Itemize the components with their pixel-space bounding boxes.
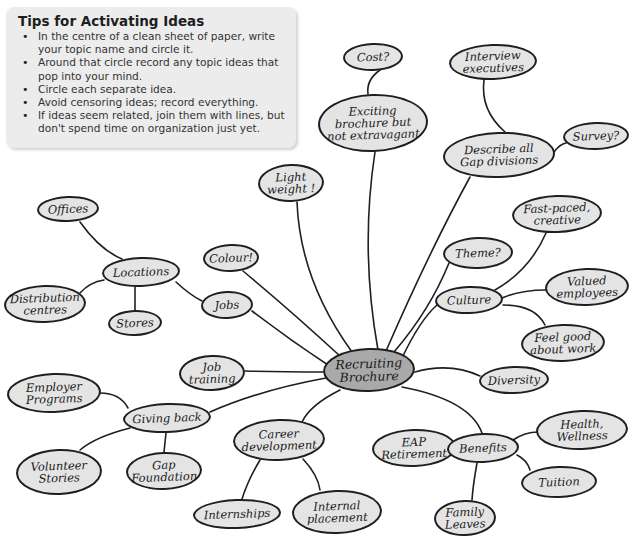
line-giving-gapfoundation [164, 433, 166, 452]
line-locations-offices [80, 222, 122, 259]
line-center-jobs [252, 311, 328, 365]
line-locations-distribution [80, 280, 104, 293]
line-center-culture [402, 305, 437, 358]
line-locations-jobs [176, 282, 202, 301]
line-benefits-tuition [517, 455, 530, 470]
connector-lines [0, 0, 635, 537]
line-culture-feelgood [503, 305, 545, 325]
line-describe-interview [483, 80, 505, 132]
line-giving-volunteer [80, 428, 130, 450]
line-center-career [302, 390, 340, 422]
line-center-benefits [402, 387, 482, 433]
line-center-exciting [368, 152, 378, 350]
line-benefits-health [513, 432, 538, 440]
line-center-jobtraining [245, 371, 323, 372]
line-center-light [297, 202, 352, 352]
line-center-colour [243, 271, 340, 356]
line-culture-valued [502, 290, 546, 298]
line-giving-employer [100, 393, 128, 408]
line-career-internal [303, 459, 320, 490]
line-career-internships [242, 460, 260, 499]
line-benefits-family [472, 463, 477, 500]
line-describe-survey [554, 143, 566, 152]
line-center-diversity [415, 368, 480, 376]
line-exciting-cost [368, 70, 380, 94]
